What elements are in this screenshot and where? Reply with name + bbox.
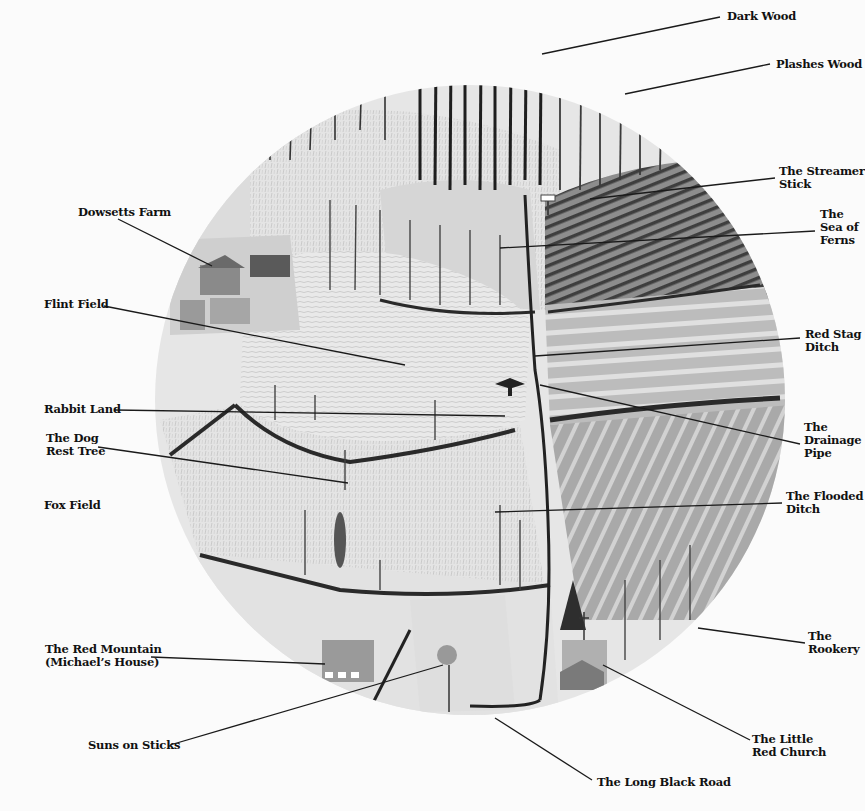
label-the-sea-of-ferns: The Sea of Ferns xyxy=(820,208,859,247)
label-the-long-black-road: The Long Black Road xyxy=(597,776,731,789)
label-the-little-red-church: The Little Red Church xyxy=(752,733,826,759)
label-the-red-mountain: The Red Mountain (Michael’s House) xyxy=(45,643,162,669)
label-flint-field: Flint Field xyxy=(44,298,109,311)
label-dark-wood: Dark Wood xyxy=(727,10,796,23)
label-the-flooded-ditch: The Flooded Ditch xyxy=(786,490,863,516)
leader-line-the-little-red-church xyxy=(603,665,750,740)
leader-line-plashes-wood xyxy=(625,64,770,94)
leader-line-the-long-black-road xyxy=(495,718,592,780)
label-suns-on-sticks: Suns on Sticks xyxy=(88,739,180,752)
label-fox-field: Fox Field xyxy=(44,499,101,512)
label-red-stag-ditch: Red Stag Ditch xyxy=(805,328,861,354)
leader-line-dark-wood xyxy=(542,17,720,54)
label-the-rookery: The Rookery xyxy=(808,630,860,656)
label-dowsetts-farm: Dowsetts Farm xyxy=(78,206,171,219)
map-illustration xyxy=(150,55,790,740)
circular-landscape-map xyxy=(0,0,865,811)
label-the-dog-rest-tree: The Dog Rest Tree xyxy=(46,432,105,458)
label-the-drainage-pipe: The Drainage Pipe xyxy=(804,421,861,460)
leader-line-the-rookery xyxy=(698,628,805,643)
label-plashes-wood: Plashes Wood xyxy=(776,58,862,71)
label-the-streamer-stick: The Streamer Stick xyxy=(779,165,865,191)
label-rabbit-land: Rabbit Land xyxy=(44,403,121,416)
